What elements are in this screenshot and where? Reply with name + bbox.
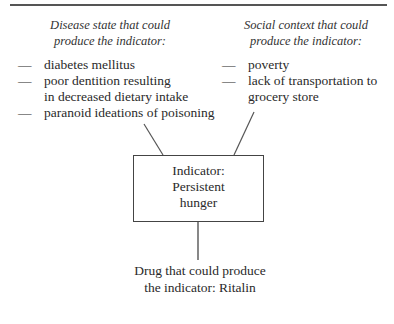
- right-connector-line: [234, 112, 254, 155]
- indicator-text: Indicator: Persistent hunger: [134, 156, 263, 211]
- indicator-box: Indicator: Persistent hunger: [133, 155, 264, 222]
- indicator-line: Indicator:: [134, 163, 263, 179]
- indicator-line: Persistent: [134, 179, 263, 195]
- left-connector-line: [144, 124, 163, 155]
- drug-note-line: the indicator: Ritalin: [100, 279, 300, 296]
- indicator-line: hunger: [134, 195, 263, 211]
- drug-note: Drug that could produce the indicator: R…: [100, 262, 300, 296]
- drug-note-line: Drug that could produce: [100, 262, 300, 279]
